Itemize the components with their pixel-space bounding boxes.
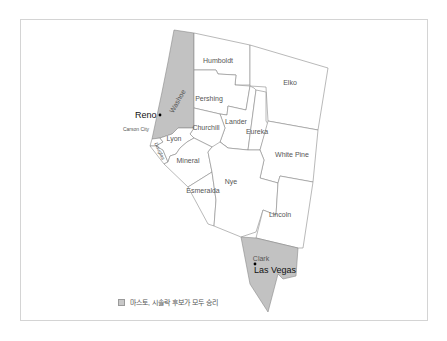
label-lander: Lander: [225, 118, 247, 125]
legend-swatch: [118, 299, 125, 306]
label-reno: Reno: [135, 110, 157, 120]
label-lyon: Lyon: [167, 135, 182, 143]
label-pershing: Pershing: [195, 95, 223, 103]
nevada-map: Humboldt Elko Washoe Pershing Lander Eur…: [0, 0, 447, 341]
county-washoe[interactable]: [152, 30, 194, 139]
label-carson-city: Carson City: [123, 126, 150, 132]
city-dot-reno: [159, 114, 162, 117]
label-lincoln: Lincoln: [269, 211, 291, 218]
legend-label: 마스토, 시솔락 후보가 모두 승리: [130, 297, 218, 307]
legend: 마스토, 시솔락 후보가 모두 승리: [118, 297, 218, 307]
label-esmeralda: Esmeralda: [186, 187, 220, 194]
label-churchill: Churchill: [192, 124, 220, 131]
label-white-pine: White Pine: [275, 151, 309, 158]
label-las-vegas: Las Vegas: [254, 265, 297, 275]
label-humboldt: Humboldt: [203, 57, 233, 64]
label-mineral: Mineral: [177, 157, 200, 164]
label-elko: Elko: [283, 79, 297, 86]
label-clark: Clark: [253, 255, 270, 262]
label-eureka: Eureka: [246, 128, 268, 135]
label-nye: Nye: [225, 178, 238, 186]
